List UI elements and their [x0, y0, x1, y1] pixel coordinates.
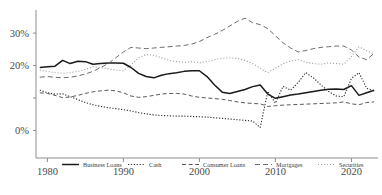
series-line-mortgages — [40, 18, 374, 78]
y-tick-group: 0%20%30% — [10, 28, 36, 136]
line-chart: 0%20%30% 19801990200020102020 Business L… — [0, 0, 382, 195]
legend-label-securities: Securities — [339, 161, 364, 168]
legend-label-consumer-loans: Consumer Loans — [203, 161, 246, 168]
series-line-securities — [40, 47, 374, 74]
y-axis: 0%20%30% — [10, 10, 36, 158]
x-tick-label: 1980 — [37, 166, 58, 177]
legend-label-business-loans: Business Loans — [83, 161, 122, 168]
legend-label-mortgages: Mortgages — [276, 161, 303, 168]
series-line-cash — [40, 73, 374, 128]
series-group — [40, 18, 374, 127]
chart-legend: Business LoansCashConsumer LoansMortgage… — [62, 161, 364, 168]
series-line-business-loans — [40, 60, 374, 98]
y-tick-label: 20% — [10, 60, 30, 71]
y-tick-label: 0% — [15, 125, 29, 136]
y-tick-label: 30% — [10, 28, 30, 39]
chart-container: 0%20%30% 19801990200020102020 Business L… — [0, 0, 382, 195]
legend-label-cash: Cash — [149, 161, 162, 168]
